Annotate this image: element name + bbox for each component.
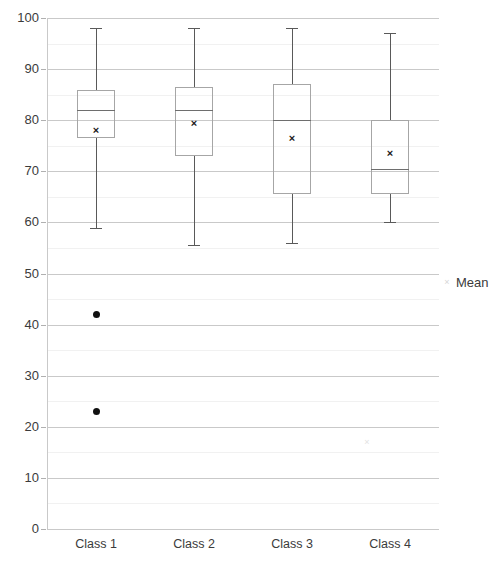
y-tick-mark bbox=[41, 18, 46, 19]
gridline-minor bbox=[47, 299, 439, 300]
mean-marker: × bbox=[384, 148, 396, 159]
y-tick-label: 40 bbox=[0, 318, 39, 331]
median-line bbox=[175, 110, 213, 111]
faint-marker: × bbox=[362, 438, 372, 447]
y-tick-mark bbox=[41, 325, 46, 326]
x-tick-label: Class 3 bbox=[237, 538, 347, 551]
whisker-upper bbox=[292, 28, 293, 84]
gridline-major bbox=[47, 478, 439, 479]
y-tick-mark bbox=[41, 529, 46, 530]
whisker-lower bbox=[96, 138, 97, 227]
gridline-minor bbox=[47, 503, 439, 504]
y-tick-mark bbox=[41, 171, 46, 172]
whisker-cap-lower bbox=[286, 243, 298, 244]
gridline-major bbox=[47, 69, 439, 70]
gridline-major bbox=[47, 427, 439, 428]
whisker-cap-upper bbox=[384, 33, 396, 34]
gridline-minor bbox=[47, 44, 439, 45]
y-tick-label: 80 bbox=[0, 113, 39, 126]
gridline-minor bbox=[47, 350, 439, 351]
y-tick-label: 20 bbox=[0, 420, 39, 433]
legend-label-mean: Mean bbox=[456, 276, 489, 289]
y-tick-mark bbox=[41, 274, 46, 275]
whisker-upper bbox=[96, 28, 97, 89]
whisker-cap-lower bbox=[188, 245, 200, 246]
box-plot-chart: 1009080706050403020100 Class 1Class 2Cla… bbox=[0, 0, 500, 569]
y-axis-line bbox=[47, 18, 48, 529]
whisker-upper bbox=[390, 33, 391, 120]
mean-marker-icon: × bbox=[443, 278, 451, 287]
gridline-major bbox=[47, 325, 439, 326]
gridline-minor bbox=[47, 248, 439, 249]
mean-marker: × bbox=[286, 133, 298, 144]
median-line bbox=[371, 169, 409, 170]
y-tick-label: 70 bbox=[0, 164, 39, 177]
gridline-major bbox=[47, 376, 439, 377]
gridline-major bbox=[47, 18, 439, 19]
whisker-cap-upper bbox=[90, 28, 102, 29]
y-tick-mark bbox=[41, 478, 46, 479]
y-tick-label: 50 bbox=[0, 267, 39, 280]
y-tick-mark bbox=[41, 120, 46, 121]
outlier-point bbox=[93, 311, 100, 318]
mean-marker: × bbox=[188, 118, 200, 129]
whisker-lower bbox=[292, 194, 293, 243]
y-tick-label: 100 bbox=[0, 11, 39, 24]
median-line bbox=[273, 120, 311, 121]
gridline-minor bbox=[47, 452, 439, 453]
y-tick-label: 10 bbox=[0, 471, 39, 484]
whisker-cap-upper bbox=[286, 28, 298, 29]
y-tick-mark bbox=[41, 376, 46, 377]
x-tick-label: Class 4 bbox=[335, 538, 445, 551]
y-tick-label: 90 bbox=[0, 62, 39, 75]
whisker-upper bbox=[194, 28, 195, 87]
y-tick-mark bbox=[41, 222, 46, 223]
whisker-cap-upper bbox=[188, 28, 200, 29]
gridline-major bbox=[47, 529, 439, 530]
x-tick-label: Class 2 bbox=[139, 538, 249, 551]
gridline-major bbox=[47, 274, 439, 275]
gridline-minor bbox=[47, 401, 439, 402]
whisker-lower bbox=[194, 156, 195, 245]
y-tick-label: 60 bbox=[0, 215, 39, 228]
y-tick-mark bbox=[41, 427, 46, 428]
outlier-point bbox=[93, 408, 100, 415]
y-tick-label: 30 bbox=[0, 369, 39, 382]
legend: × Mean bbox=[443, 276, 489, 289]
median-line bbox=[77, 110, 115, 111]
y-tick-label: 0 bbox=[0, 522, 39, 535]
whisker-cap-lower bbox=[384, 222, 396, 223]
whisker-cap-lower bbox=[90, 228, 102, 229]
mean-marker: × bbox=[90, 125, 102, 136]
gridline-minor bbox=[47, 197, 439, 198]
x-tick-label: Class 1 bbox=[41, 538, 151, 551]
y-tick-mark bbox=[41, 69, 46, 70]
gridline-major bbox=[47, 222, 439, 223]
whisker-lower bbox=[390, 194, 391, 222]
